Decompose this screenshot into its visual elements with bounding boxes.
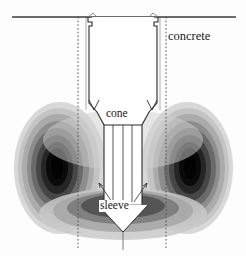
label-sleeve: sleeve — [99, 200, 130, 212]
figure-container: concrete cone sleeve — [0, 0, 246, 256]
label-concrete: concrete — [168, 30, 210, 43]
label-cone: cone — [105, 108, 129, 120]
